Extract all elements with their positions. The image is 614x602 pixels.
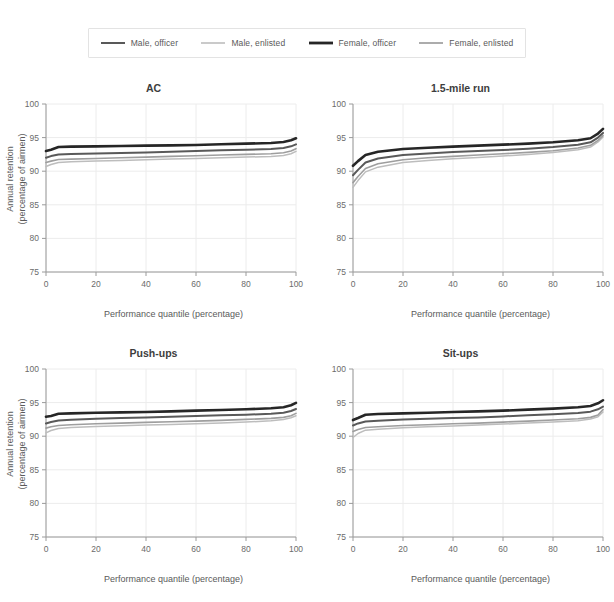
svg-text:95: 95 [337,398,347,408]
svg-text:75: 75 [30,267,40,277]
legend-item: Female, enlisted [419,38,513,48]
svg-text:40: 40 [448,544,458,554]
svg-text:80: 80 [548,279,558,289]
svg-text:85: 85 [337,465,347,475]
svg-text:0: 0 [351,544,356,554]
legend-label: Male, officer [131,38,178,48]
legend-item: Male, enlisted [201,38,285,48]
svg-text:80: 80 [548,544,558,554]
svg-text:40: 40 [141,279,151,289]
legend-line-swatch [101,39,125,47]
legend-item: Female, officer [309,38,397,48]
svg-text:80: 80 [337,498,347,508]
svg-text:20: 20 [91,544,101,554]
panel-ac: AC Annual retention (percentage of airme… [0,72,307,337]
legend-line-swatch [201,39,225,47]
svg-text:0: 0 [351,279,356,289]
panel-run: 1.5-mile run 7580859095100020406080100 P… [307,72,614,337]
x-axis-title: Performance quantile (percentage) [46,309,301,319]
svg-text:95: 95 [30,133,40,143]
svg-text:100: 100 [25,99,39,109]
svg-text:100: 100 [289,544,303,554]
svg-text:80: 80 [241,544,251,554]
svg-text:60: 60 [191,544,201,554]
svg-text:100: 100 [332,99,346,109]
svg-text:80: 80 [30,233,40,243]
svg-text:0: 0 [44,279,49,289]
svg-text:20: 20 [91,279,101,289]
svg-text:20: 20 [398,544,408,554]
svg-text:85: 85 [337,200,347,210]
svg-text:80: 80 [337,233,347,243]
svg-text:80: 80 [30,498,40,508]
svg-text:0: 0 [44,544,49,554]
svg-text:90: 90 [337,431,347,441]
legend-label: Male, enlisted [231,38,285,48]
panel-pushups: Push-ups Annual retention (percentage of… [0,337,307,602]
legend-label: Female, enlisted [449,38,513,48]
svg-text:40: 40 [141,544,151,554]
svg-text:100: 100 [289,279,303,289]
svg-text:75: 75 [337,532,347,542]
chart-panel-grid: AC Annual retention (percentage of airme… [0,72,614,602]
plot-area: 7580859095100020406080100 [307,72,614,337]
panel-situps: Sit-ups 7580859095100020406080100 Perfor… [307,337,614,602]
svg-text:85: 85 [30,465,40,475]
svg-text:90: 90 [337,166,347,176]
svg-text:100: 100 [332,364,346,374]
svg-text:60: 60 [191,279,201,289]
x-axis-title: Performance quantile (percentage) [353,309,608,319]
legend-label: Female, officer [339,38,397,48]
x-axis-title: Performance quantile (percentage) [46,574,301,584]
svg-text:100: 100 [596,544,610,554]
svg-text:100: 100 [25,364,39,374]
plot-area: 7580859095100020406080100 [0,337,307,602]
svg-text:95: 95 [337,133,347,143]
legend-line-swatch [309,39,333,47]
svg-text:40: 40 [448,279,458,289]
svg-text:95: 95 [30,398,40,408]
svg-text:20: 20 [398,279,408,289]
svg-text:75: 75 [30,532,40,542]
legend: Male, officer Male, enlisted Female, off… [88,28,526,58]
x-axis-title: Performance quantile (percentage) [353,574,608,584]
legend-item: Male, officer [101,38,178,48]
plot-area: 7580859095100020406080100 [307,337,614,602]
svg-text:80: 80 [241,279,251,289]
svg-text:60: 60 [498,544,508,554]
svg-text:90: 90 [30,431,40,441]
svg-text:85: 85 [30,200,40,210]
svg-text:90: 90 [30,166,40,176]
svg-text:75: 75 [337,267,347,277]
legend-line-swatch [419,39,443,47]
svg-text:100: 100 [596,279,610,289]
plot-area: 7580859095100020406080100 [0,72,307,337]
svg-text:60: 60 [498,279,508,289]
